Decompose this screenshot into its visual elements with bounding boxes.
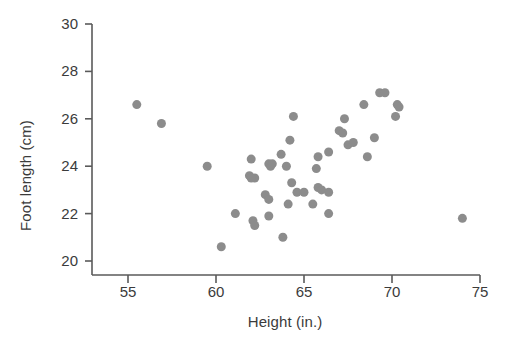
data-point [380, 88, 389, 97]
data-point [247, 174, 256, 183]
data-point [308, 200, 317, 209]
data-point [268, 159, 277, 168]
data-point [349, 138, 358, 147]
data-point [264, 195, 273, 204]
y-tick-label: 20 [50, 252, 78, 269]
data-point [231, 209, 240, 218]
data-point [157, 119, 166, 128]
x-axis-label: Height (in.) [248, 313, 323, 330]
data-point [264, 211, 273, 220]
y-tick-label: 30 [50, 15, 78, 32]
data-point [338, 129, 347, 138]
plot-canvas [0, 0, 512, 351]
y-tick-label: 22 [50, 205, 78, 222]
data-point [284, 200, 293, 209]
data-point [324, 147, 333, 156]
data-point [458, 214, 467, 223]
x-tick-label: 70 [372, 283, 412, 300]
data-point [285, 136, 294, 145]
data-point [217, 242, 226, 251]
data-point [370, 133, 379, 142]
x-tick-label: 65 [284, 283, 324, 300]
data-point [324, 209, 333, 218]
x-tick-label: 55 [108, 283, 148, 300]
data-point [289, 112, 298, 121]
x-tick-label: 75 [460, 283, 500, 300]
data-point [132, 100, 141, 109]
data-point [203, 162, 212, 171]
x-tick-label: 60 [196, 283, 236, 300]
y-tick-label: 26 [50, 110, 78, 127]
x-axis-label-container: Height (in.) [0, 313, 512, 330]
data-point [340, 114, 349, 123]
data-point [363, 152, 372, 161]
data-point [300, 188, 309, 197]
data-point [277, 150, 286, 159]
data-point [250, 221, 259, 230]
data-point [314, 152, 323, 161]
data-point [317, 185, 326, 194]
data-point [312, 164, 321, 173]
data-point [395, 102, 404, 111]
data-point [278, 233, 287, 242]
data-point [359, 100, 368, 109]
scatter-plot: Foot length (cm) Height (in.) 2022242628… [0, 0, 512, 351]
data-point [282, 162, 291, 171]
data-point [247, 155, 256, 164]
y-tick-label: 28 [50, 62, 78, 79]
y-tick-label: 24 [50, 157, 78, 174]
data-point [391, 112, 400, 121]
data-point [287, 178, 296, 187]
